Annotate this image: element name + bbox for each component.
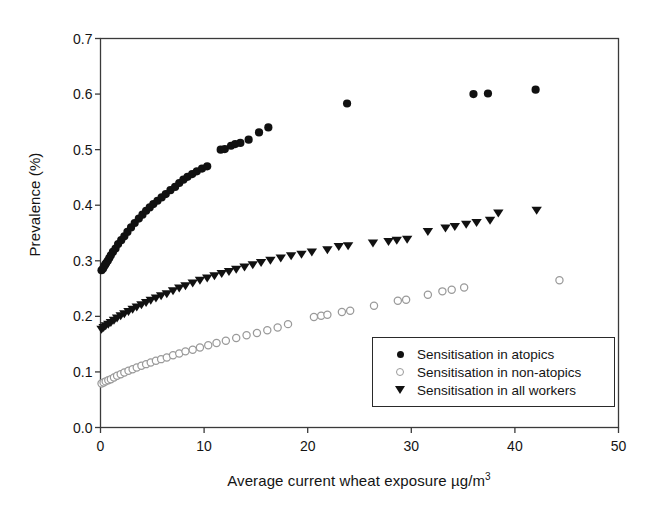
data-point-open-circle — [264, 327, 271, 334]
data-point-open-circle — [556, 277, 563, 284]
data-point-filled-circle — [236, 139, 244, 147]
data-point-triangle — [322, 246, 332, 254]
data-point-triangle — [286, 252, 296, 260]
data-point-triangle — [296, 251, 306, 259]
data-point-triangle — [334, 243, 344, 251]
data-point-open-circle — [370, 302, 377, 309]
legend-item-all-workers: Sensitisation in all workers — [383, 381, 602, 399]
data-point-triangle — [383, 238, 393, 246]
legend-label-all-workers: Sensitisation in all workers — [417, 383, 576, 398]
data-point-open-circle — [324, 311, 331, 318]
data-point-triangle — [440, 225, 450, 233]
data-point-filled-circle — [484, 89, 492, 97]
data-point-open-circle — [253, 329, 260, 336]
data-point-triangle — [423, 228, 433, 236]
data-point-filled-circle — [245, 136, 253, 144]
data-point-filled-circle — [469, 90, 477, 98]
plot-area — [0, 0, 666, 513]
data-point-open-circle — [310, 313, 317, 320]
data-point-open-circle — [243, 332, 250, 339]
triangle-down-icon — [383, 386, 417, 394]
legend-item-atopics: Sensitisation in atopics — [383, 345, 602, 363]
legend-label-atopics: Sensitisation in atopics — [417, 347, 554, 362]
data-point-triangle — [265, 257, 275, 265]
data-point-triangle — [461, 221, 471, 229]
series-atopics — [97, 86, 539, 275]
data-point-filled-circle — [255, 128, 263, 136]
data-point-triangle — [368, 240, 378, 248]
data-point-open-circle — [222, 337, 229, 344]
data-point-open-circle — [394, 297, 401, 304]
data-point-open-circle — [233, 334, 240, 341]
data-point-filled-circle — [203, 162, 211, 170]
legend-label-non-atopics: Sensitisation in non-atopics — [417, 365, 581, 380]
data-point-triangle — [531, 207, 541, 215]
data-point-open-circle — [347, 307, 354, 314]
data-point-filled-circle — [532, 86, 540, 94]
data-point-open-circle — [403, 296, 410, 303]
data-point-open-circle — [338, 308, 345, 315]
data-point-open-circle — [448, 286, 455, 293]
data-point-triangle — [248, 261, 258, 269]
data-point-open-circle — [196, 344, 203, 351]
data-point-triangle — [471, 219, 481, 227]
data-point-triangle — [343, 242, 353, 250]
data-point-triangle — [256, 259, 266, 267]
data-point-triangle — [276, 255, 286, 263]
data-point-triangle — [239, 263, 249, 271]
data-point-filled-circle — [343, 99, 351, 107]
data-point-triangle — [485, 217, 495, 225]
data-point-open-circle — [182, 348, 189, 355]
data-point-open-circle — [205, 342, 212, 349]
data-point-filled-circle — [264, 123, 272, 131]
data-point-open-circle — [424, 291, 431, 298]
data-point-open-circle — [189, 346, 196, 353]
data-point-open-circle — [213, 339, 220, 346]
legend: Sensitisation in atopics Sensitisation i… — [372, 337, 615, 407]
data-point-open-circle — [284, 321, 291, 328]
data-point-open-circle — [461, 284, 468, 291]
data-point-triangle — [493, 210, 503, 218]
data-point-triangle — [307, 248, 317, 256]
data-point-open-circle — [274, 324, 281, 331]
data-point-open-circle — [439, 288, 446, 295]
filled-circle-icon — [383, 351, 417, 358]
data-point-triangle — [392, 237, 402, 245]
open-circle-icon — [383, 368, 417, 376]
legend-item-non-atopics: Sensitisation in non-atopics — [383, 363, 602, 381]
scatter-plot-figure: Prevalence (%) 0.00.10.20.30.40.50.60.7 … — [0, 0, 666, 513]
data-point-triangle — [402, 236, 412, 244]
data-point-triangle — [450, 223, 460, 231]
